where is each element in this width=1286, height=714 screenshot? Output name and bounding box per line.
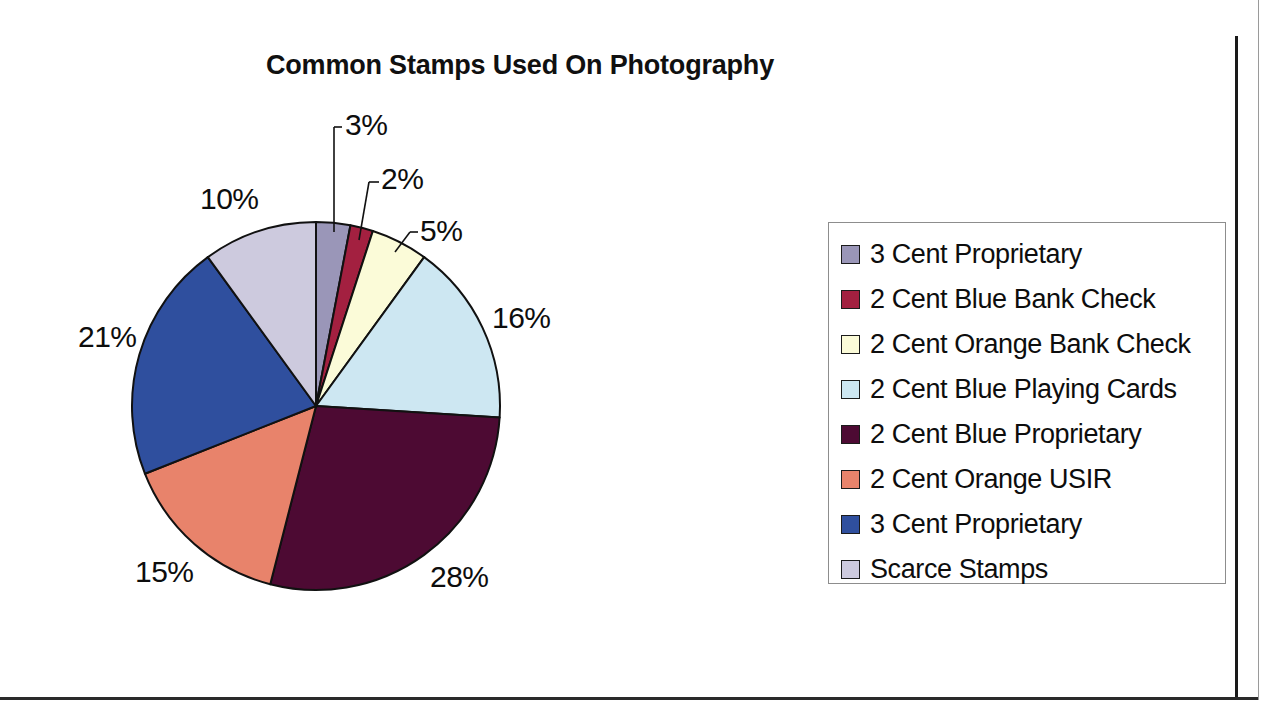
pie-percent-label: 10% — [200, 182, 259, 216]
legend-color-swatch — [841, 245, 860, 264]
legend-item[interactable]: 2 Cent Orange USIR — [841, 457, 1225, 502]
legend-item-label: 2 Cent Blue Bank Check — [870, 286, 1155, 313]
legend-color-swatch — [841, 380, 860, 399]
legend-color-swatch — [841, 425, 860, 444]
legend-item-label: 3 Cent Proprietary — [870, 511, 1082, 538]
chart-page: Common Stamps Used On Photography 3%2%5%… — [0, 0, 1286, 714]
legend-item[interactable]: 2 Cent Blue Proprietary — [841, 412, 1225, 457]
pie-percent-label: 5% — [420, 214, 462, 248]
legend-item-label: 2 Cent Orange USIR — [870, 466, 1112, 493]
pie-chart-svg — [120, 210, 520, 610]
legend-item[interactable]: 2 Cent Blue Bank Check — [841, 277, 1225, 322]
legend-color-swatch — [841, 290, 860, 309]
legend-item[interactable]: 2 Cent Blue Playing Cards — [841, 367, 1225, 412]
page-title: Common Stamps Used On Photography — [0, 50, 1040, 81]
legend-color-swatch — [841, 515, 860, 534]
legend-item-label: Scarce Stamps — [870, 556, 1048, 583]
pie-percent-label: 3% — [345, 108, 387, 142]
pie-percent-label: 2% — [381, 162, 423, 196]
legend-item[interactable]: 2 Cent Orange Bank Check — [841, 322, 1225, 367]
legend-item-label: 2 Cent Blue Proprietary — [870, 421, 1141, 448]
legend-item[interactable]: Scarce Stamps — [841, 547, 1225, 592]
pie-percent-label: 16% — [492, 301, 551, 335]
legend-item[interactable]: 3 Cent Proprietary — [841, 502, 1225, 547]
legend-item-label: 2 Cent Orange Bank Check — [870, 331, 1191, 358]
legend-item-label: 3 Cent Proprietary — [870, 241, 1082, 268]
legend-color-swatch — [841, 470, 860, 489]
pie-percent-label: 15% — [135, 555, 194, 589]
legend-color-swatch — [841, 335, 860, 354]
page-frame-right-rule — [1235, 36, 1238, 700]
page-frame-inner-edge — [1258, 0, 1259, 700]
pie-percent-label: 21% — [78, 320, 137, 354]
pie-percent-label: 28% — [430, 560, 489, 594]
chart-legend: 3 Cent Proprietary2 Cent Blue Bank Check… — [828, 222, 1226, 584]
page-frame-bottom-rule — [0, 697, 1258, 700]
legend-item-label: 2 Cent Blue Playing Cards — [870, 376, 1177, 403]
legend-color-swatch — [841, 560, 860, 579]
pie-chart — [120, 210, 520, 610]
legend-item[interactable]: 3 Cent Proprietary — [841, 232, 1225, 277]
